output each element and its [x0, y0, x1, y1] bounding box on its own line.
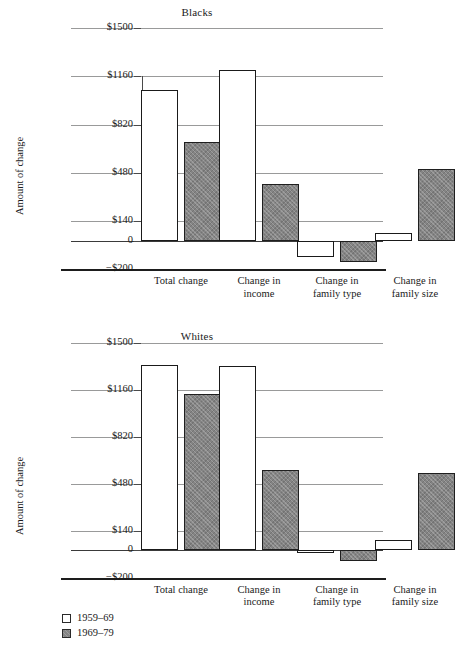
category-label-line: income: [220, 288, 298, 301]
category-label-line: Change in: [376, 584, 454, 597]
category-label-line: family size: [376, 288, 454, 301]
y-axis-tick-label: $820: [87, 430, 133, 441]
bar-1969-79: [184, 142, 221, 241]
y-axis-tick-label: $1160: [87, 383, 133, 394]
bar-1959-69: [141, 90, 178, 241]
bar-1959-69: [297, 241, 334, 257]
bar-1959-69: [219, 70, 256, 241]
category-label-line: income: [220, 596, 298, 609]
category-label-line: Change in: [376, 275, 454, 288]
bar-1969-79: [262, 470, 299, 550]
category-label-line: Change in: [298, 584, 376, 597]
bar-1969-79: [184, 394, 221, 550]
bar-1959-69: [375, 540, 412, 550]
y-axis-label-blacks: Amount of change: [14, 137, 25, 215]
y-axis-tick-label: $140: [87, 214, 133, 225]
legend-swatch-icon: [62, 614, 71, 623]
y-axis-tick-label: $140: [87, 524, 133, 535]
y-axis-label-whites: Amount of change: [14, 457, 25, 535]
category-label-line: Total change: [142, 275, 220, 288]
y-axis-tickmark: [134, 390, 141, 391]
bar-1959-69: [375, 233, 412, 241]
x-axis-category-label: Change infamily type: [298, 275, 376, 300]
legend-label: 1959–69: [77, 612, 114, 623]
plot-area-blacks: $1500$1160$820$480$1400−$200Total change…: [71, 0, 383, 285]
x-axis-category-label: Change infamily size: [376, 584, 454, 609]
bar-1969-79: [340, 241, 377, 262]
bar-1959-69: [141, 365, 178, 550]
y-axis-tick-label: $820: [87, 118, 133, 129]
y-axis-tick-label: 0: [87, 543, 133, 554]
y-axis-tickmark: [134, 28, 141, 29]
y-axis-tickmark: [134, 550, 141, 551]
y-axis-tickmark: [134, 531, 141, 532]
x-axis-category-label: Change infamily size: [376, 275, 454, 300]
category-label-line: family type: [298, 596, 376, 609]
x-axis-category-label: Change infamily type: [298, 584, 376, 609]
legend-label: 1969–79: [77, 627, 114, 638]
y-axis-tickmark: [134, 76, 141, 77]
y-axis-tickmark: [134, 173, 141, 174]
bar-1969-79: [418, 169, 455, 241]
y-axis-tick-label: −$200: [87, 571, 133, 582]
x-axis-category-label: Change inincome: [220, 275, 298, 300]
chart-whites: Whites Amount of change $1500$1160$820$4…: [0, 325, 394, 615]
bar-1969-79: [262, 184, 299, 241]
chart-blacks: Blacks Amount of change $1500$1160$820$4…: [0, 0, 394, 325]
bar-1969-79: [418, 473, 455, 550]
category-label-line: family size: [376, 596, 454, 609]
x-axis-category-label: Total change: [142, 275, 220, 288]
bar-1959-69: [219, 366, 256, 550]
x-axis-category-label: Change inincome: [220, 584, 298, 609]
y-axis-tickmark: [134, 437, 141, 438]
y-axis-tick-label: $1160: [87, 69, 133, 80]
y-axis-tickmark: [134, 484, 141, 485]
category-label-line: family type: [298, 288, 376, 301]
legend-swatch-icon: [62, 629, 71, 638]
category-label-line: Change in: [220, 275, 298, 288]
y-axis-tickmark: [134, 125, 141, 126]
category-label-line: Change in: [220, 584, 298, 597]
category-label-line: Total change: [142, 584, 220, 597]
y-axis-tick-label: $480: [87, 477, 133, 488]
y-axis-tick-label: $480: [87, 166, 133, 177]
y-axis-tick-label: 0: [87, 234, 133, 245]
x-axis-category-label: Total change: [142, 584, 220, 597]
y-axis-tickmark: [134, 241, 141, 242]
y-axis-tick-label: $1500: [87, 21, 133, 32]
y-axis-tickmark: [134, 343, 141, 344]
y-axis-tickmark: [134, 221, 141, 222]
category-label-line: Change in: [298, 275, 376, 288]
plot-area-whites: $1500$1160$820$480$1400−$200Total change…: [71, 325, 383, 594]
bar-1969-79: [340, 550, 377, 561]
bar-1959-69: [297, 550, 334, 553]
y-axis-tick-label: $1500: [87, 336, 133, 347]
y-axis-tick-label: −$200: [87, 262, 133, 273]
